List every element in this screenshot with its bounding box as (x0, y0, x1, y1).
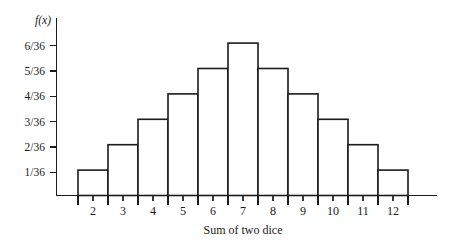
bar-2 (78, 170, 108, 195)
x-tick-label-10: 10 (327, 204, 339, 218)
y-axis-label: f(x) (35, 14, 51, 27)
x-tick-label-9: 9 (300, 204, 306, 218)
histogram-figure: f(x) 6/36 5/36 4/36 3/36 2/36 1/36 (0, 0, 455, 241)
x-tick-label-2: 2 (90, 204, 96, 218)
bar-5 (168, 94, 198, 196)
y-tick-label-2: 2/36 (25, 141, 46, 153)
y-tick-label-6: 6/36 (25, 40, 46, 52)
bar-12 (378, 170, 408, 195)
y-tick-label-5: 5/36 (25, 65, 46, 77)
histogram-plot-canvas: f(x) 6/36 5/36 4/36 3/36 2/36 1/36 (0, 0, 455, 241)
bar-11 (348, 145, 378, 196)
y-tick-label-3: 3/36 (25, 116, 46, 128)
bar-4 (138, 119, 168, 195)
x-tick-label-11: 11 (357, 204, 369, 218)
x-tick-label-8: 8 (270, 204, 276, 218)
x-tick-label-4: 4 (150, 204, 156, 218)
x-tick-label-12: 12 (387, 204, 399, 218)
y-tick-label-1: 1/36 (25, 166, 46, 178)
bar-3 (108, 145, 138, 196)
bar-6 (198, 69, 228, 196)
x-axis-tick-labels: 2 3 4 5 6 7 8 9 10 11 12 (90, 204, 399, 218)
y-axis-ticks: 6/36 5/36 4/36 3/36 2/36 1/36 (25, 40, 57, 179)
bar-10 (318, 119, 348, 195)
x-tick-label-7: 7 (240, 204, 246, 218)
x-tick-label-3: 3 (120, 204, 126, 218)
bar-7 (228, 43, 258, 195)
bar-8 (258, 69, 288, 196)
bar-series (78, 43, 408, 195)
bar-9 (288, 94, 318, 196)
x-axis-label: Sum of two dice (204, 223, 283, 237)
y-tick-label-4: 4/36 (25, 90, 46, 102)
x-tick-label-6: 6 (210, 204, 216, 218)
x-tick-label-5: 5 (180, 204, 186, 218)
